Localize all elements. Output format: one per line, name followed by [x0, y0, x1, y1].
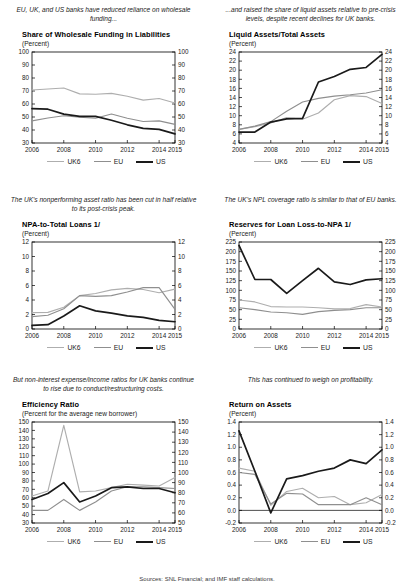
chart-legend: UK6 EU US: [8, 158, 199, 165]
svg-text:2015: 2015: [375, 526, 390, 533]
svg-text:225: 225: [225, 238, 236, 245]
svg-text:80: 80: [22, 74, 30, 81]
svg-text:50: 50: [178, 113, 186, 120]
svg-text:0.2: 0.2: [385, 494, 394, 501]
svg-text:2015: 2015: [168, 146, 183, 153]
svg-text:25: 25: [385, 316, 393, 323]
figure-sheet: EU, UK, and US banks have reduced relian…: [0, 0, 414, 583]
panel-subtitle: (Percent): [22, 40, 199, 47]
svg-text:0.8: 0.8: [227, 456, 236, 463]
legend-label-us: US: [156, 344, 165, 351]
legend-label-uk6: UK6: [274, 158, 287, 165]
figure-footnote: Sources: SNL Financial; and IMF staff ca…: [0, 576, 414, 583]
svg-text:6: 6: [232, 130, 236, 137]
legend-swatch-uk6: [47, 161, 64, 162]
svg-text:8: 8: [232, 121, 236, 128]
svg-text:24: 24: [385, 48, 393, 55]
legend-swatch-eu: [301, 347, 318, 348]
svg-text:10: 10: [178, 253, 186, 260]
legend-item-uk6: UK6: [254, 538, 287, 545]
svg-text:0.4: 0.4: [385, 481, 394, 488]
legend-item-eu: EU: [94, 344, 123, 351]
svg-text:100: 100: [385, 287, 396, 294]
panel-caption: EU, UK, and US banks have reduced relian…: [10, 6, 197, 24]
svg-text:2010: 2010: [295, 146, 310, 153]
svg-text:60: 60: [178, 100, 186, 107]
legend-swatch-uk6: [47, 347, 64, 348]
svg-text:2006: 2006: [232, 332, 247, 339]
svg-text:2014: 2014: [152, 332, 167, 339]
svg-text:2008: 2008: [264, 146, 279, 153]
chart-legend: UK6 EU US: [8, 344, 199, 351]
svg-text:0.0: 0.0: [385, 507, 394, 514]
svg-text:10: 10: [229, 112, 237, 119]
svg-text:2006: 2006: [232, 146, 247, 153]
svg-text:75: 75: [385, 296, 393, 303]
legend-swatch-us: [136, 347, 153, 349]
chart-svg: 3040506070809010030405060708090100200620…: [8, 48, 199, 156]
panel-title: Liquid Assets/Total Assets: [229, 30, 406, 39]
svg-text:80: 80: [22, 477, 30, 484]
svg-text:4: 4: [178, 296, 182, 303]
svg-text:12: 12: [22, 238, 30, 245]
svg-text:12: 12: [385, 103, 393, 110]
svg-text:100: 100: [225, 287, 236, 294]
svg-text:90: 90: [22, 61, 30, 68]
svg-text:40: 40: [22, 126, 30, 133]
svg-text:1.4: 1.4: [227, 418, 236, 425]
svg-text:140: 140: [18, 427, 29, 434]
legend-item-us: US: [343, 344, 372, 351]
svg-text:150: 150: [385, 267, 396, 274]
legend-item-uk6: UK6: [254, 158, 287, 165]
legend-label-us: US: [156, 538, 165, 545]
legend-label-uk6: UK6: [274, 538, 287, 545]
svg-text:50: 50: [385, 306, 393, 313]
legend-label-eu: EU: [321, 344, 330, 351]
svg-text:14: 14: [385, 94, 393, 101]
svg-text:0.6: 0.6: [385, 469, 394, 476]
svg-text:14: 14: [229, 94, 237, 101]
svg-text:2010: 2010: [295, 332, 310, 339]
svg-text:2008: 2008: [57, 146, 72, 153]
legend-swatch-us: [343, 347, 360, 349]
svg-text:12: 12: [229, 103, 237, 110]
panel-efficiency-ratio: But non-interest expense/income ratios f…: [0, 370, 207, 583]
panel-caption: The UK's NPL coverage ratio is similar t…: [217, 196, 404, 214]
svg-text:16: 16: [385, 85, 393, 92]
svg-text:2014: 2014: [359, 526, 374, 533]
panel-caption: The UK's nonperforming asset ratio has b…: [10, 196, 197, 214]
svg-text:2015: 2015: [375, 332, 390, 339]
svg-text:175: 175: [225, 258, 236, 265]
legend-item-eu: EU: [301, 538, 330, 545]
svg-text:22: 22: [229, 57, 237, 64]
plot-area: 0255075100125150175200225025507510012515…: [215, 238, 406, 342]
svg-text:60: 60: [22, 100, 30, 107]
panel-title: NPA-to-Total Loans 1/: [22, 220, 199, 229]
plot-area: 3040506070809010011012013014015050607080…: [8, 418, 199, 536]
legend-label-uk6: UK6: [274, 344, 287, 351]
plot-area: 4681012141618202224468101214161820222420…: [215, 48, 406, 156]
legend-label-eu: EU: [114, 344, 123, 351]
svg-text:40: 40: [178, 126, 186, 133]
svg-text:2006: 2006: [25, 146, 40, 153]
legend-label-us: US: [156, 158, 165, 165]
svg-text:2010: 2010: [88, 526, 103, 533]
svg-text:2014: 2014: [359, 332, 374, 339]
plot-area: 3040506070809010030405060708090100200620…: [8, 48, 199, 156]
svg-text:1.2: 1.2: [385, 431, 394, 438]
svg-text:2012: 2012: [120, 332, 135, 339]
svg-text:2006: 2006: [25, 332, 40, 339]
svg-text:2008: 2008: [264, 526, 279, 533]
legend-label-eu: EU: [114, 158, 123, 165]
chart-legend: UK6 EU US: [215, 158, 406, 165]
legend-swatch-uk6: [254, 541, 271, 542]
svg-text:24: 24: [229, 48, 237, 55]
legend-item-uk6: UK6: [47, 158, 80, 165]
legend-label-us: US: [363, 344, 372, 351]
chart-svg: 4681012141618202224468101214161820222420…: [215, 48, 406, 156]
svg-text:1.0: 1.0: [227, 443, 236, 450]
panel-caption: ...and raised the share of liquid assets…: [217, 6, 404, 24]
svg-text:2008: 2008: [57, 332, 72, 339]
svg-text:12: 12: [178, 238, 186, 245]
svg-text:130: 130: [18, 435, 29, 442]
